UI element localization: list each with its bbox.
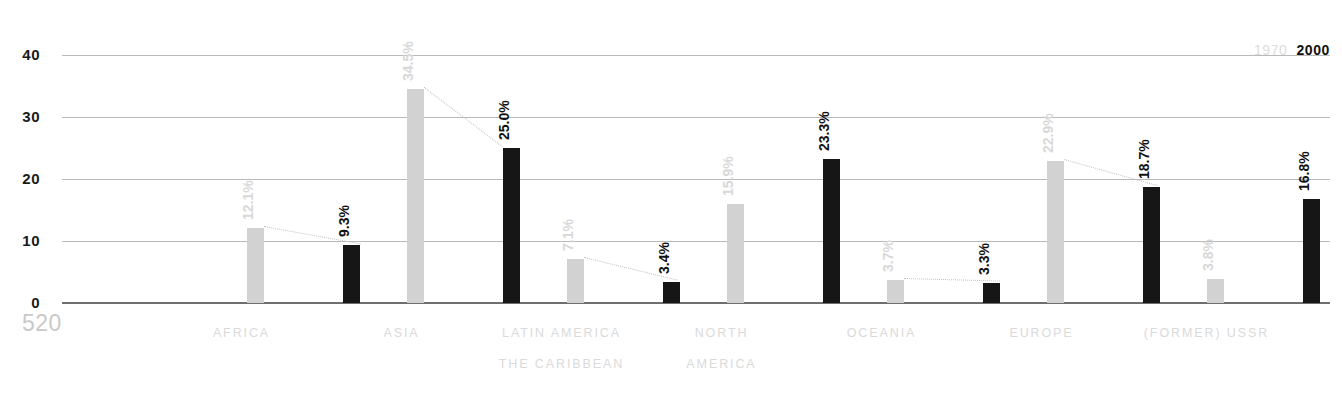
bar-label-asia-2000: 25.0%: [496, 100, 512, 140]
y-tick-20: 20: [0, 170, 40, 187]
page-number: 520: [22, 310, 62, 337]
bar-label-ussr-2000: 16.8%: [1296, 151, 1312, 191]
category-label-line2: AMERICA: [665, 349, 778, 380]
category-label-line1: EUROPE: [985, 318, 1098, 349]
category-label-line1: LATIN AMERICA: [490, 318, 633, 349]
y-tick-40: 40: [0, 46, 40, 63]
y-tick-10: 10: [0, 232, 40, 249]
category-label-latin-america: LATIN AMERICA THE CARIBBEAN: [490, 318, 633, 380]
bar-label-asia-1970: 34.5%: [400, 41, 416, 81]
category-label-line1: OCEANIA: [825, 318, 938, 349]
category-label-north-america: NORTH AMERICA: [665, 318, 778, 380]
gridline-30: [62, 117, 1330, 118]
bar-label-northam-1970: 15.9%: [720, 156, 736, 196]
category-label-line1: (FORMER) USSR: [1135, 318, 1278, 349]
category-label-line1: ASIA: [345, 318, 458, 349]
bar-label-africa-1970: 12.1%: [240, 180, 256, 220]
category-label-ussr: (FORMER) USSR: [1135, 318, 1278, 349]
y-tick-0: 0: [0, 294, 40, 311]
bar-oceania-2000[interactable]: [983, 283, 1000, 304]
bar-northam-1970[interactable]: [727, 204, 744, 303]
bar-label-europe-1970: 22.9%: [1040, 113, 1056, 153]
bar-label-oceania-2000: 3.3%: [976, 243, 992, 275]
bar-label-oceania-1970: 3.7%: [880, 240, 896, 272]
bar-ussr-1970[interactable]: [1207, 279, 1224, 303]
category-label-line2: THE CARIBBEAN: [490, 349, 633, 380]
bar-northam-2000[interactable]: [823, 159, 840, 304]
gridline-40: [62, 55, 1330, 56]
bar-europe-1970[interactable]: [1047, 161, 1064, 303]
connector-oceania: [904, 278, 1000, 283]
plot-area: 40 30 20 10 0 12.1% 9.3% 34.5% 25.0% 7.1…: [62, 55, 1330, 303]
bar-ussr-2000[interactable]: [1303, 199, 1320, 303]
bar-latam-1970[interactable]: [567, 259, 584, 303]
category-label-line1: NORTH: [665, 318, 778, 349]
bar-label-ussr-1970: 3.8%: [1200, 239, 1216, 271]
bar-latam-2000[interactable]: [663, 282, 680, 303]
bar-label-africa-2000: 9.3%: [336, 205, 352, 237]
category-label-line1: AFRICA: [185, 318, 298, 349]
chart-page: 19702000 520 40 30 20 10 0 12.1% 9.3% 34…: [0, 0, 1342, 401]
category-label-asia: ASIA: [345, 318, 458, 349]
y-tick-30: 30: [0, 108, 40, 125]
bar-label-latam-2000: 3.4%: [656, 242, 672, 274]
bar-label-latam-1970: 7.1%: [560, 219, 576, 251]
bar-africa-1970[interactable]: [247, 228, 264, 303]
category-label-oceania: OCEANIA: [825, 318, 938, 349]
bar-asia-1970[interactable]: [407, 89, 424, 303]
bar-label-europe-2000: 18.7%: [1136, 139, 1152, 179]
bar-oceania-1970[interactable]: [887, 280, 904, 303]
category-label-africa: AFRICA: [185, 318, 298, 349]
bar-africa-2000[interactable]: [343, 245, 360, 303]
category-label-europe: EUROPE: [985, 318, 1098, 349]
bar-asia-2000[interactable]: [503, 148, 520, 303]
bar-label-northam-2000: 23.3%: [816, 111, 832, 151]
bar-europe-2000[interactable]: [1143, 187, 1160, 303]
